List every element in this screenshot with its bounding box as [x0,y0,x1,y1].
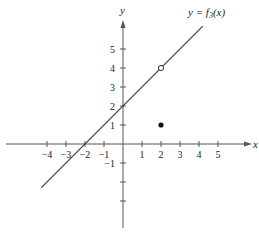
y-tick-label: 3 [110,82,115,93]
x-tick-label: 2 [159,149,164,160]
x-tick-label: 1 [140,149,145,160]
y-axis-arrow-icon [121,20,126,28]
y-tick-label: 2 [110,101,115,112]
y-tick-label: 5 [110,44,115,55]
x-tick-label: 4 [197,149,202,160]
x-tick-label: 5 [216,149,221,160]
x-axis-arrow-icon [244,142,252,147]
y-axis-label: y [119,4,125,16]
y-axis: y [119,4,126,228]
function-label: y = f3(x) [187,6,225,20]
function-graph: x y −4−3−2−112345 54321−1 y = f3(x) [0,0,259,235]
filled-circle-point [158,122,163,127]
y-tick-label: 4 [110,63,115,74]
x-tick-label: 3 [178,149,183,160]
x-tick-label: −3 [61,149,72,160]
y-tick-label: −1 [104,158,115,169]
x-axis-label: x [252,138,258,150]
x-tick-label: −2 [80,149,91,160]
y-tick-label: 1 [110,120,115,131]
x-tick-label: −4 [42,149,53,160]
open-circle-point [158,65,163,70]
